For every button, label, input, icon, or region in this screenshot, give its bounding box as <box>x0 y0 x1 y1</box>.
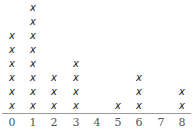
x-mark: x <box>176 86 188 98</box>
x-tick-label: 3 <box>69 117 83 129</box>
x-mark: x <box>70 100 82 112</box>
x-mark: x <box>48 86 60 98</box>
dot-plot: 012345678 xxxxxxxxxxxxxxxxxxxxxxxxxxx <box>0 0 193 133</box>
x-mark: x <box>27 16 39 28</box>
x-mark: x <box>6 44 18 56</box>
x-tick-label: 8 <box>175 117 189 129</box>
x-mark: x <box>48 72 60 84</box>
x-axis-line <box>2 113 191 114</box>
x-mark: x <box>6 86 18 98</box>
x-mark: x <box>27 100 39 112</box>
x-mark: x <box>133 72 145 84</box>
x-tick-label: 0 <box>5 117 19 129</box>
x-mark: x <box>133 86 145 98</box>
x-mark: x <box>70 86 82 98</box>
x-mark: x <box>70 72 82 84</box>
x-mark: x <box>112 100 124 112</box>
x-mark: x <box>176 100 188 112</box>
x-mark: x <box>27 72 39 84</box>
x-mark: x <box>6 100 18 112</box>
x-tick-label: 5 <box>111 117 125 129</box>
x-mark: x <box>48 100 60 112</box>
x-tick-label: 7 <box>154 117 168 129</box>
x-mark: x <box>27 86 39 98</box>
x-tick-label: 2 <box>47 117 61 129</box>
x-mark: x <box>133 100 145 112</box>
x-mark: x <box>27 44 39 56</box>
x-mark: x <box>27 30 39 42</box>
x-mark: x <box>70 58 82 70</box>
x-tick-label: 6 <box>132 117 146 129</box>
x-mark: x <box>27 2 39 14</box>
x-mark: x <box>6 72 18 84</box>
x-mark: x <box>27 58 39 70</box>
x-tick-label: 1 <box>26 117 40 129</box>
x-mark: x <box>6 30 18 42</box>
x-tick-label: 4 <box>90 117 104 129</box>
x-mark: x <box>6 58 18 70</box>
